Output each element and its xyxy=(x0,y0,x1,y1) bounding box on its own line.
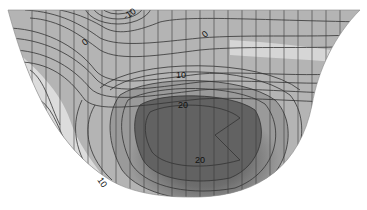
contour-label: 20 xyxy=(195,155,205,165)
contour-label: 20 xyxy=(178,100,188,110)
contour-plot: -10 0 0 10 20 20 10 xyxy=(0,0,367,210)
contour-label: 10 xyxy=(176,70,186,80)
